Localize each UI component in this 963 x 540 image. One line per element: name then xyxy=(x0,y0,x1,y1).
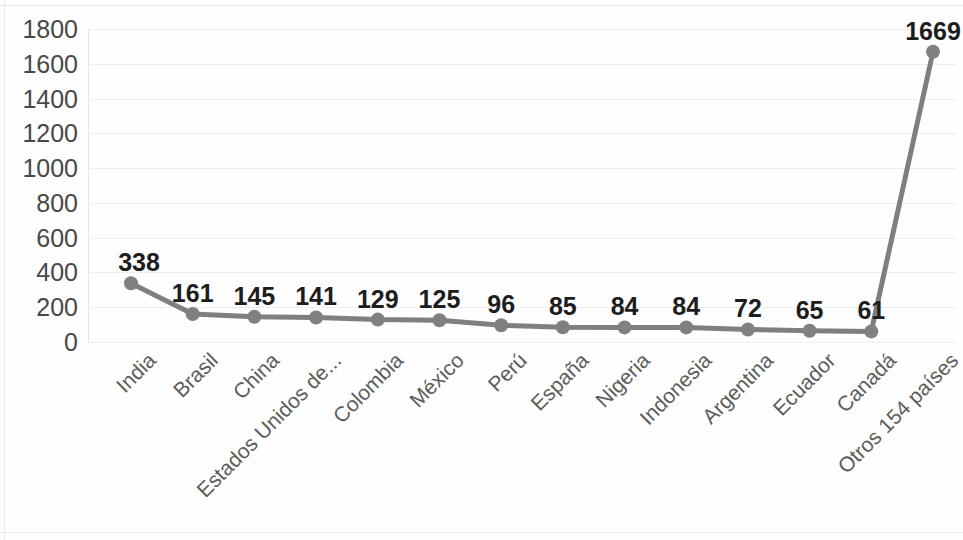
data-point-marker[interactable] xyxy=(433,313,447,327)
series-line xyxy=(88,29,956,342)
x-axis-category-label: México xyxy=(406,349,468,411)
data-point-label: 61 xyxy=(857,298,885,323)
data-point-marker[interactable] xyxy=(679,320,693,334)
y-tick-label: 0 xyxy=(0,330,78,355)
y-tick-label: 1200 xyxy=(0,121,78,146)
data-point-marker[interactable] xyxy=(309,311,323,325)
data-point-label: 85 xyxy=(549,294,577,319)
data-point-label: 125 xyxy=(419,287,461,312)
data-point-label: 141 xyxy=(295,284,337,309)
data-point-label: 338 xyxy=(118,250,160,275)
x-axis-category-label: Brasil xyxy=(169,349,221,401)
data-point-marker[interactable] xyxy=(186,307,200,321)
data-point-label: 65 xyxy=(796,298,824,323)
x-axis-category-label: Otros 154 países xyxy=(834,349,962,477)
data-point-marker[interactable] xyxy=(494,318,508,332)
x-axis-category-label-text: Ecuador xyxy=(769,349,839,419)
y-tick-label: 800 xyxy=(0,191,78,216)
y-tick-label: 200 xyxy=(0,295,78,320)
x-axis-category-label-text: India xyxy=(112,349,159,396)
data-point-marker[interactable] xyxy=(741,323,755,337)
data-point-label: 129 xyxy=(357,287,399,312)
x-axis-category-label-text: Nigeria xyxy=(591,349,653,411)
x-axis-category-label: Perú xyxy=(484,349,530,395)
data-point-marker[interactable] xyxy=(124,276,138,290)
plot-area: 338161145141129125968584847265611669 xyxy=(88,29,956,342)
gridline xyxy=(88,342,956,343)
x-axis-category-label-text: Perú xyxy=(484,349,530,395)
x-axis-category-label: Ecuador xyxy=(769,349,839,419)
y-tick-label: 400 xyxy=(0,260,78,285)
x-axis-category-label-text: España xyxy=(527,349,592,414)
data-point-marker[interactable] xyxy=(556,320,570,334)
data-point-label: 72 xyxy=(734,296,762,321)
x-axis-category-label-text: Otros 154 países xyxy=(834,349,962,477)
data-point-marker[interactable] xyxy=(803,324,817,338)
y-tick-label: 1000 xyxy=(0,156,78,181)
data-point-marker[interactable] xyxy=(371,313,385,327)
x-axis-category-label-text: China xyxy=(229,349,283,403)
y-tick-label: 1400 xyxy=(0,87,78,112)
x-axis-category-label: China xyxy=(229,349,283,403)
y-axis: 180016001400120010008006004002000 xyxy=(0,0,78,540)
line-chart: 180016001400120010008006004002000 338161… xyxy=(0,0,963,540)
data-point-label: 84 xyxy=(611,294,639,319)
x-axis-category-label: Nigeria xyxy=(591,349,653,411)
y-tick-label: 600 xyxy=(0,226,78,251)
scan-artifact-bottom xyxy=(0,532,963,533)
data-point-marker[interactable] xyxy=(247,310,261,324)
data-point-label: 145 xyxy=(234,284,276,309)
scan-artifact-top xyxy=(0,5,963,6)
x-axis-category-label: India xyxy=(112,349,159,396)
x-axis-category-label-text: Brasil xyxy=(169,349,221,401)
data-point-label: 84 xyxy=(672,294,700,319)
y-tick-label: 1800 xyxy=(0,17,78,42)
y-tick-label: 1600 xyxy=(0,52,78,77)
data-point-marker[interactable] xyxy=(864,324,878,338)
data-point-marker[interactable] xyxy=(926,45,940,59)
x-axis-category-label-text: México xyxy=(406,349,468,411)
x-axis-category-label: España xyxy=(527,349,592,414)
data-point-label: 1669 xyxy=(905,19,961,44)
data-point-label: 161 xyxy=(172,281,214,306)
data-point-marker[interactable] xyxy=(618,320,632,334)
x-axis-category-labels: IndiaBrasilChinaEstados Unidos de...Colo… xyxy=(88,349,956,529)
data-point-label: 96 xyxy=(487,292,515,317)
